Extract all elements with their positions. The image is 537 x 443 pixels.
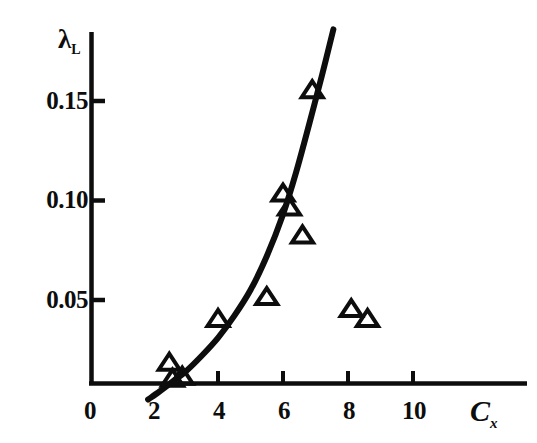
data-point-markers	[159, 81, 378, 386]
y-tick-label-0.05: 0.05	[18, 287, 88, 312]
y-axis-title-subscript: L	[71, 42, 80, 57]
data-point-triangle	[256, 288, 277, 304]
y-tick-label-0.10: 0.10	[18, 187, 88, 212]
y-tick-label-0.15: 0.15	[18, 88, 88, 113]
x-tick-label-8: 8	[339, 398, 359, 423]
data-point-triangle	[341, 300, 362, 316]
x-axis-title: Cx	[470, 396, 498, 431]
x-tick-label-10: 10	[398, 398, 430, 423]
scatter-plot-svg	[0, 0, 537, 443]
x-tick-label-4: 4	[209, 398, 229, 423]
y-axis-title: λL	[58, 26, 81, 57]
x-tick-label-2: 2	[144, 398, 164, 423]
x-tick-label-0: 0	[80, 398, 100, 423]
x-tick-label-6: 6	[274, 398, 294, 423]
data-point-triangle	[159, 354, 180, 370]
x-axis-title-symbol: C	[470, 394, 490, 427]
data-point-triangle	[292, 226, 313, 242]
x-axis-title-subscript: x	[490, 415, 498, 431]
y-axis-title-symbol: λ	[58, 24, 71, 54]
figure-canvas: 0.15 0.10 0.05 0 2 4 6 8 10 λL Cx	[0, 0, 537, 443]
data-point-triangle	[208, 310, 229, 326]
fitted-curve	[148, 29, 333, 399]
